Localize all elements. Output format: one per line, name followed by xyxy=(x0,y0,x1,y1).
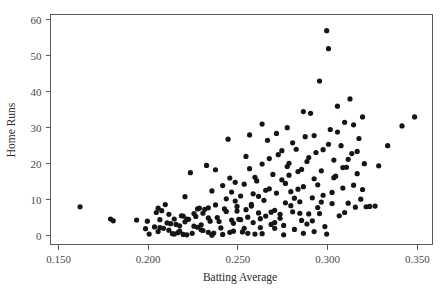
y-tick-label: 0 xyxy=(36,230,42,242)
data-point xyxy=(294,147,299,152)
data-point xyxy=(295,187,300,192)
data-point xyxy=(304,221,309,226)
data-point xyxy=(355,149,360,154)
x-tick-label: 0.300 xyxy=(315,253,340,265)
data-point xyxy=(340,185,345,190)
data-point xyxy=(317,211,322,216)
data-point xyxy=(243,207,248,212)
data-point xyxy=(172,216,177,221)
data-point xyxy=(292,196,297,201)
data-point xyxy=(286,173,291,178)
data-point xyxy=(274,191,279,196)
data-point xyxy=(312,176,317,181)
data-point xyxy=(231,221,236,226)
data-point xyxy=(251,220,256,225)
data-point xyxy=(200,211,205,216)
data-point xyxy=(301,231,306,236)
data-point xyxy=(399,123,404,128)
data-point xyxy=(321,147,326,152)
x-tick-label: 0.350 xyxy=(405,253,430,265)
plot-canvas: 0.1500.2000.2500.3000.350 0102030405060 … xyxy=(0,0,444,294)
data-point xyxy=(166,212,171,217)
data-point xyxy=(147,231,152,236)
data-point xyxy=(290,140,295,145)
data-point xyxy=(290,209,295,214)
data-point xyxy=(331,157,336,162)
data-point xyxy=(303,134,308,139)
data-point xyxy=(342,210,347,215)
data-point xyxy=(335,129,340,134)
data-point xyxy=(206,215,211,220)
data-point xyxy=(260,161,265,166)
data-point xyxy=(288,203,293,208)
data-point xyxy=(367,204,372,209)
data-point xyxy=(340,165,345,170)
data-point xyxy=(270,172,275,177)
data-point xyxy=(297,211,302,216)
data-point xyxy=(213,202,218,207)
data-point xyxy=(376,163,381,168)
data-point xyxy=(308,111,313,116)
data-point xyxy=(242,226,247,231)
data-point xyxy=(182,194,187,199)
data-point xyxy=(342,120,347,125)
data-point xyxy=(134,217,139,222)
data-point xyxy=(328,127,333,132)
y-axis-label: Home Runs xyxy=(5,102,17,157)
data-point xyxy=(234,208,239,213)
data-point xyxy=(229,189,234,194)
data-point xyxy=(321,193,326,198)
data-point xyxy=(206,230,211,235)
data-point xyxy=(252,175,257,180)
figure-background xyxy=(0,0,444,294)
data-point xyxy=(177,223,182,228)
data-point xyxy=(249,202,254,207)
data-point xyxy=(263,214,268,219)
data-point xyxy=(220,183,225,188)
data-point xyxy=(245,231,250,236)
data-point xyxy=(285,164,290,169)
data-point xyxy=(313,150,318,155)
data-point xyxy=(283,181,288,186)
data-point xyxy=(260,231,265,236)
data-point xyxy=(281,223,286,228)
data-point xyxy=(197,206,202,211)
data-point xyxy=(385,143,390,148)
data-point xyxy=(245,215,250,220)
data-point xyxy=(317,78,322,83)
data-point xyxy=(349,151,354,156)
data-point xyxy=(200,228,205,233)
data-point xyxy=(206,205,211,210)
data-point xyxy=(360,187,365,192)
data-point xyxy=(209,188,214,193)
data-point xyxy=(360,114,365,119)
data-point xyxy=(258,216,263,221)
data-point xyxy=(356,136,361,141)
data-point xyxy=(152,224,157,229)
x-tick-label: 0.150 xyxy=(46,253,71,265)
data-point xyxy=(204,163,209,168)
data-point xyxy=(188,170,193,175)
y-tick-label: 50 xyxy=(31,50,43,62)
x-axis-label: Batting Average xyxy=(203,271,277,284)
data-point xyxy=(143,226,148,231)
data-point xyxy=(355,171,360,176)
data-point xyxy=(220,232,225,237)
x-tick-label: 0.200 xyxy=(136,253,161,265)
data-point xyxy=(243,154,248,159)
data-point xyxy=(213,167,218,172)
data-point xyxy=(347,96,352,101)
y-tick-label: 60 xyxy=(31,14,43,26)
data-point xyxy=(324,28,329,33)
data-point xyxy=(412,114,417,119)
data-point xyxy=(252,231,257,236)
data-point xyxy=(279,148,284,153)
data-point xyxy=(331,175,336,180)
data-point xyxy=(233,198,238,203)
data-point xyxy=(326,142,331,147)
data-point xyxy=(281,232,286,237)
data-point xyxy=(267,156,272,161)
data-point xyxy=(337,213,342,218)
data-point xyxy=(263,188,268,193)
data-point xyxy=(315,182,320,187)
